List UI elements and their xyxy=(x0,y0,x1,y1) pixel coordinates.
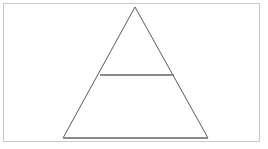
triangle-outline xyxy=(63,7,208,138)
triangle-diagram-canvas xyxy=(0,0,268,149)
figure-container xyxy=(0,0,268,149)
